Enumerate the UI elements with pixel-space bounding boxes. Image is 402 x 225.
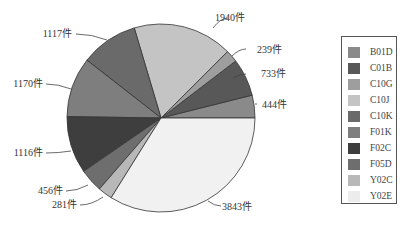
- legend-swatch: [348, 143, 360, 154]
- slice-label-f02c: 1116件: [14, 147, 43, 158]
- legend-swatch: [348, 47, 360, 58]
- legend-label: Y02E: [370, 191, 392, 201]
- legend-swatch: [348, 191, 360, 202]
- legend-item-c10g: C10G: [348, 78, 393, 90]
- legend-item-y02c: Y02C: [348, 174, 393, 186]
- legend-label: C10G: [370, 79, 393, 89]
- legend-swatch: [348, 95, 360, 106]
- leader-line: [80, 197, 103, 205]
- legend-swatch: [348, 175, 360, 186]
- legend-item-f01k: F01K: [348, 126, 392, 138]
- slice-label-y02e: 3843件: [222, 201, 252, 212]
- leader-line: [208, 201, 221, 206]
- legend-label: F02C: [370, 143, 391, 153]
- legend-label: C10J: [370, 95, 390, 105]
- slice-label-c10g: 239件: [257, 44, 282, 55]
- slice-label-c10k: 1117件: [43, 28, 72, 39]
- leader-line: [46, 84, 71, 89]
- leader-line: [66, 185, 88, 191]
- slice-label-f01k: 1170件: [13, 78, 43, 89]
- leader-line: [46, 151, 71, 153]
- legend-swatch: [348, 79, 360, 90]
- legend: B01DC01BC10GC10JC10KF01KF02CF05DY02CY02E: [341, 36, 397, 204]
- slice-label-f05d: 456件: [38, 185, 63, 196]
- legend-swatch: [348, 159, 360, 170]
- legend-swatch: [348, 127, 360, 138]
- legend-item-c10k: C10K: [348, 110, 393, 122]
- legend-item-b01d: B01D: [348, 46, 393, 58]
- legend-label: F05D: [370, 159, 392, 169]
- slice-label-c10j: 1940件: [215, 12, 245, 23]
- leader-line: [232, 49, 246, 56]
- slice-label-b01d: 444件: [262, 99, 287, 110]
- legend-label: F01K: [370, 127, 392, 137]
- legend-label: C01B: [370, 63, 392, 73]
- legend-item-f02c: F02C: [348, 142, 391, 154]
- leader-line: [76, 34, 107, 40]
- legend-item-c10j: C10J: [348, 94, 390, 106]
- legend-label: B01D: [370, 47, 393, 57]
- legend-swatch: [348, 111, 360, 122]
- legend-label: C10K: [370, 111, 393, 121]
- legend-swatch: [348, 63, 360, 74]
- legend-item-y02e: Y02E: [348, 190, 392, 202]
- legend-label: Y02C: [370, 175, 393, 185]
- legend-item-c01b: C01B: [348, 62, 392, 74]
- slice-label-y02c: 281件: [52, 199, 77, 210]
- slice-label-c01b: 733件: [261, 68, 286, 79]
- legend-item-f05d: F05D: [348, 158, 392, 170]
